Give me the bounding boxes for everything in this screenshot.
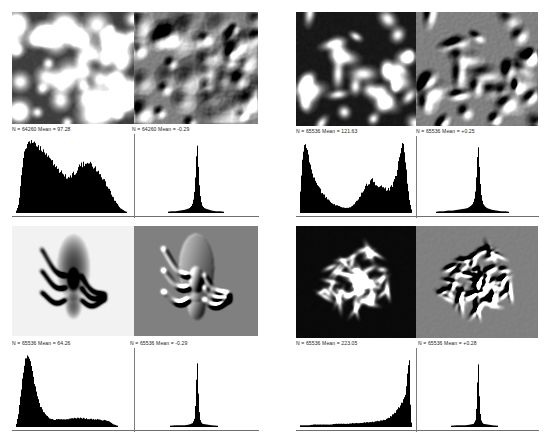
histogram-louse-embossed xyxy=(134,348,259,432)
stat-label-blobs-original: N = 64260 Mean = 97.28 xyxy=(12,126,132,134)
image-pair-chromosomes xyxy=(296,226,538,338)
panel-bottom-left: N = 65536 Mean = 64.26 N = 65536 Mean = … xyxy=(0,222,282,444)
original-image-louse xyxy=(12,226,134,336)
histogram-chromosomes-original xyxy=(296,348,416,432)
embossed-image-chromosomes xyxy=(416,226,538,338)
histogram-pair-chromosomes xyxy=(296,348,539,432)
stat-label-bacteria-original: N = 65536 Mean = 121.63 xyxy=(296,128,416,136)
embossed-image-blobs xyxy=(134,12,258,124)
stat-label-chromosomes-embossed: N = 65536 Mean = +0.28 xyxy=(418,340,477,348)
image-pair-blobs xyxy=(12,12,258,124)
panel-top-right: N = 65536 Mean = 121.63 N = 65536 Mean =… xyxy=(282,0,559,222)
stat-label-bacteria-embossed: N = 65536 Mean = +0.25 xyxy=(416,128,475,136)
stat-row-top-left: N = 64260 Mean = 97.28 N = 64260 Mean = … xyxy=(12,126,258,133)
histogram-pair-louse xyxy=(12,348,259,432)
image-pair-bacteria xyxy=(296,12,538,126)
stat-row-bottom-left: N = 65536 Mean = 64.26 N = 65536 Mean = … xyxy=(12,340,258,347)
stat-row-bottom-right: N = 65536 Mean = 223.05 N = 65536 Mean =… xyxy=(296,340,538,347)
histogram-chromosomes-embossed xyxy=(416,348,539,432)
embossed-image-louse xyxy=(134,226,258,336)
histogram-pair-bacteria xyxy=(296,136,539,218)
embossed-image-bacteria xyxy=(416,12,538,126)
stat-label-louse-embossed: N = 65536 Mean = -0.29 xyxy=(130,340,187,348)
histogram-bacteria-original xyxy=(296,136,416,218)
histogram-bacteria-embossed xyxy=(416,136,539,218)
stat-row-top-right: N = 65536 Mean = 121.63 N = 65536 Mean =… xyxy=(296,128,538,135)
panel-bottom-right: N = 65536 Mean = 223.05 N = 65536 Mean =… xyxy=(282,222,559,444)
image-pair-louse xyxy=(12,226,258,336)
figure-grid: N = 64260 Mean = 97.28 N = 64260 Mean = … xyxy=(0,0,559,444)
original-image-bacteria xyxy=(296,12,416,126)
original-image-chromosomes xyxy=(296,226,416,338)
stat-label-blobs-embossed: N = 64260 Mean = -0.29 xyxy=(132,126,189,134)
histogram-blobs-embossed xyxy=(134,134,259,218)
stat-label-louse-original: N = 65536 Mean = 64.26 xyxy=(12,340,130,348)
histogram-pair-blobs xyxy=(12,134,259,218)
panel-top-left: N = 64260 Mean = 97.28 N = 64260 Mean = … xyxy=(0,0,282,222)
original-image-blobs xyxy=(12,12,134,124)
histogram-blobs-original xyxy=(12,134,134,218)
stat-label-chromosomes-original: N = 65536 Mean = 223.05 xyxy=(296,340,418,348)
histogram-louse-original xyxy=(12,348,134,432)
